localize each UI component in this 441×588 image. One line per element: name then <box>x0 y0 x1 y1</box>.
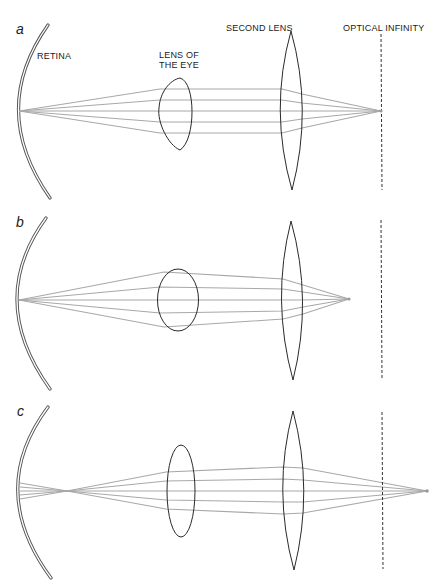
focus-point-a <box>379 109 382 112</box>
focus-point-c <box>425 489 429 493</box>
optical-infinity-line-b <box>381 220 382 379</box>
retina-b <box>17 218 50 389</box>
optics-diagram: a RETINA LENS OF THE EYE SECOND LENS OPT… <box>0 0 441 588</box>
lens-of-eye-label-line1: LENS OF <box>159 50 199 60</box>
panel-a: a RETINA LENS OF THE EYE SECOND LENS OPT… <box>16 21 424 198</box>
lens-of-eye-label-line2: THE EYE <box>159 60 199 70</box>
retina-label: RETINA <box>37 51 71 61</box>
second-lens-label: SECOND LENS <box>226 23 293 33</box>
focus-point-b <box>347 297 350 300</box>
rays-c <box>20 467 427 514</box>
optical-infinity-label: OPTICAL INFINITY <box>343 23 424 33</box>
panel-label-a: a <box>16 21 24 37</box>
rays-a <box>19 89 381 133</box>
panel-b: b <box>16 214 382 389</box>
panel-label-c: c <box>17 403 24 419</box>
rays-b <box>19 272 349 327</box>
panel-c: c <box>17 403 429 578</box>
panel-label-b: b <box>16 214 24 230</box>
